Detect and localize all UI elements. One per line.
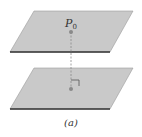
figure-canvas: P0 (a) <box>0 0 142 137</box>
foot-point <box>69 87 73 91</box>
parallel-planes-diagram: P0 (a) <box>0 0 142 137</box>
figure-caption: (a) <box>64 117 78 128</box>
